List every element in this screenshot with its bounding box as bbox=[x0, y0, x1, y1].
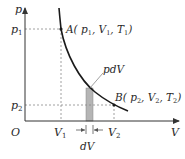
p1-label: p1 bbox=[11, 23, 23, 37]
point-b bbox=[112, 103, 115, 106]
point-b-label: B( p2, V2, T2) bbox=[114, 91, 181, 105]
p2-label: p2 bbox=[11, 99, 23, 113]
pdv-label: pdV bbox=[103, 63, 125, 75]
dv-arrows bbox=[76, 125, 103, 134]
point-a-label: A( p1, V1, T1) bbox=[65, 23, 132, 37]
v-axis-label: V bbox=[171, 126, 180, 139]
dv-label: dV bbox=[80, 140, 96, 152]
pv-diagram: p V O p1 p2 V1 V2 A( p1, V1, T1) B( p2, … bbox=[0, 0, 185, 159]
pdv-leader bbox=[90, 73, 103, 88]
v2-label: V2 bbox=[108, 126, 120, 140]
work-strip bbox=[86, 88, 93, 121]
v1-label: V1 bbox=[54, 126, 66, 140]
p-axis-label: p bbox=[15, 3, 22, 16]
pv-diagram-svg: p V O p1 p2 V1 V2 A( p1, V1, T1) B( p2, … bbox=[0, 0, 185, 159]
dashed-guides bbox=[25, 29, 114, 121]
origin-label: O bbox=[11, 126, 20, 139]
point-a bbox=[59, 27, 62, 30]
